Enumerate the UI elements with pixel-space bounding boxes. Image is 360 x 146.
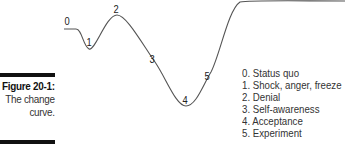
legend-item-status-quo: 0. Status quo <box>242 67 342 79</box>
legend-item-self-awareness: 3. Self-awareness <box>242 103 342 115</box>
legend-item-shock: 1. Shock, anger, freeze <box>242 79 342 91</box>
legend-item-acceptance: 4. Acceptance <box>242 115 342 127</box>
stage-label-1: 1 <box>86 37 91 48</box>
legend-item-denial: 2. Denial <box>242 91 342 103</box>
legend-item-experiment: 5. Experiment <box>242 127 342 139</box>
stage-label-2: 2 <box>113 4 118 15</box>
stage-legend: 0. Status quo 1. Shock, anger, freeze 2.… <box>242 67 342 139</box>
stage-label-0: 0 <box>64 16 69 27</box>
stage-label-5: 5 <box>204 71 209 82</box>
stage-label-4: 4 <box>182 95 187 106</box>
stage-label-3: 3 <box>149 54 154 65</box>
